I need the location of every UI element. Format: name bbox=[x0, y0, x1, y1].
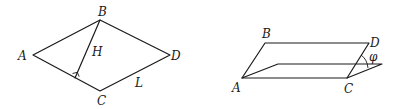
vertex-label-b-plane: B bbox=[261, 27, 271, 41]
vertex-label-c-plane: C bbox=[344, 82, 353, 96]
vertex-label-b: B bbox=[97, 5, 107, 19]
height-label: H bbox=[91, 45, 103, 59]
vertex-label-a-plane: A bbox=[231, 81, 241, 95]
vertex-label-c: C bbox=[97, 94, 106, 108]
horizontal-plane-outline bbox=[242, 64, 382, 78]
rhombus-figure: A B D C H L bbox=[17, 5, 181, 108]
angle-phi-arc bbox=[361, 55, 368, 68]
vertex-label-a: A bbox=[17, 49, 27, 63]
vertex-label-d-plane: D bbox=[369, 36, 380, 50]
inclined-plane-outline bbox=[242, 43, 369, 78]
diagram-canvas: A B D C H L B D A C φ bbox=[0, 0, 398, 109]
inclined-plane-figure: B D A C φ bbox=[231, 27, 382, 96]
vertex-label-d: D bbox=[170, 49, 181, 63]
angle-phi-label: φ bbox=[369, 50, 378, 64]
side-label: L bbox=[134, 76, 143, 90]
